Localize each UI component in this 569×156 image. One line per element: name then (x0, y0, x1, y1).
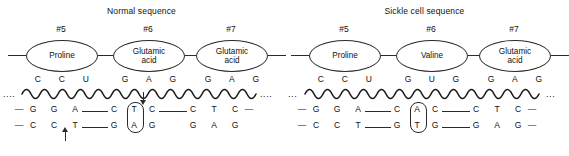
mrna-base: C (318, 74, 324, 84)
mutation-highlight-capsule (127, 102, 144, 133)
dna-base: C (108, 104, 120, 114)
amino-acid-oval-5: Proline (309, 40, 381, 72)
dna-base: C (310, 120, 322, 130)
mrna-base: G (405, 74, 412, 84)
panel-sickle-cell-sequence: Sickle cell sequence #5 #6 #7 Proline Va… (283, 0, 566, 156)
dna-base: G (187, 120, 199, 130)
dna-bottom-link-a (365, 127, 391, 128)
dna-base: C (512, 104, 524, 114)
amino-acid-name-line1: Glutamic (499, 47, 531, 57)
amino-acid-oval-5: Proline (26, 40, 98, 72)
mrna-codon-6: G A G (113, 74, 185, 84)
amino-acid-name-line1: Proline (332, 51, 358, 61)
dna-base: G (429, 120, 441, 130)
dna-base: C (331, 120, 343, 130)
dna-top-link-a (82, 111, 108, 112)
dna-lead-dash: — (13, 104, 25, 114)
mrna-codon-5: C C U (309, 74, 381, 84)
codon-number-7: #7 (196, 24, 266, 34)
dna-base: T (491, 104, 503, 114)
panel-title: Sickle cell sequence (283, 6, 566, 16)
dna-base: G (512, 120, 524, 130)
dna-base: G (310, 104, 322, 114)
dna-base: C (48, 120, 60, 130)
mrna-base: G (535, 74, 542, 84)
mrna-base: G (169, 74, 176, 84)
mrna-base: A (229, 74, 235, 84)
dna-base: A (69, 104, 81, 114)
dna-base: T (352, 120, 364, 130)
mrna-base: C (35, 74, 41, 84)
amino-acid-name-line1: Glutamic (133, 47, 165, 57)
mrna-codon-5: C C U (26, 74, 98, 84)
mrna-codon-6: G U G (396, 74, 468, 84)
amino-acid-oval-6: Glutamic acid (113, 40, 185, 72)
mrna-base: G (252, 74, 259, 84)
mrna-base: A (146, 74, 152, 84)
mrna-base: A (512, 74, 518, 84)
dna-base: G (146, 120, 158, 130)
dna-base: T (208, 104, 220, 114)
dna-trail-dash: — (526, 104, 538, 114)
peptide-backbone-left-stub (8, 55, 26, 56)
peptide-backbone-right-stub (551, 55, 569, 56)
dna-base: C (429, 104, 441, 114)
mrna-base: G (122, 74, 129, 84)
dna-base: A (352, 104, 364, 114)
amino-acid-name-line2: acid (499, 56, 531, 66)
dna-lead-dash: — (296, 120, 308, 130)
mutation-highlight-capsule (410, 102, 427, 133)
panel-title: Normal sequence (0, 6, 283, 16)
mrna-base-mutation: U (429, 74, 435, 84)
dna-bottom-link-a (82, 127, 108, 128)
mrna-codon-7: G A G (479, 74, 551, 84)
dna-lead-dash: — (13, 120, 25, 130)
peptide-bond-6-7 (468, 55, 479, 56)
peptide-backbone-left-stub (291, 55, 309, 56)
amino-acid-name-line2: acid (133, 56, 165, 66)
panel-normal-sequence: Normal sequence #5 #6 #7 Proline Glutami… (0, 0, 283, 156)
mrna-base: G (488, 74, 495, 84)
mrna-base: C (342, 74, 348, 84)
mrna-base: U (83, 74, 89, 84)
dna-base: A (208, 120, 220, 130)
peptide-bond-5-6 (381, 55, 396, 56)
amino-acid-name-line1: Valine (421, 51, 443, 61)
dna-lead-dash: — (296, 104, 308, 114)
amino-acid-name-line1: Glutamic (216, 47, 248, 57)
dna-trail-dash: — (526, 120, 538, 130)
amino-acid-name-line1: Proline (49, 51, 75, 61)
mutation-arrow-down-icon (140, 92, 146, 106)
dna-base: T (69, 120, 81, 130)
mrna-base: G (453, 74, 460, 84)
dna-base: A (491, 120, 503, 130)
peptide-bond-5-6 (98, 55, 113, 56)
dna-base: G (27, 104, 39, 114)
dna-base: G (108, 120, 120, 130)
mrna-base: G (205, 74, 212, 84)
dna-top-link-b (159, 111, 187, 112)
codon-number-5: #5 (26, 24, 96, 34)
dna-top-link-b (442, 111, 470, 112)
dna-bottom-link-b (442, 127, 470, 128)
dna-base: G (470, 120, 482, 130)
dna-base: C (146, 104, 158, 114)
mrna-base: C (59, 74, 65, 84)
peptide-bond-6-7 (185, 55, 196, 56)
amino-acid-oval-7: Glutamic acid (479, 40, 551, 72)
amino-acid-name-line2: acid (216, 56, 248, 66)
codon-number-6: #6 (396, 24, 466, 34)
amino-acid-oval-6: Valine (396, 40, 468, 72)
dna-base: G (391, 120, 403, 130)
dna-base: G (48, 104, 60, 114)
mrna-strand: ... ... (283, 86, 566, 102)
codon-number-7: #7 (479, 24, 549, 34)
codon-number-6: #6 (113, 24, 183, 34)
dna-base: G (229, 120, 241, 130)
dna-base: C (187, 104, 199, 114)
dna-base: C (229, 104, 241, 114)
mrna-codon-7: G A G (196, 74, 268, 84)
dna-base: C (27, 120, 39, 130)
dna-trail-dash: — (243, 104, 255, 114)
codon-number-5: #5 (309, 24, 379, 34)
